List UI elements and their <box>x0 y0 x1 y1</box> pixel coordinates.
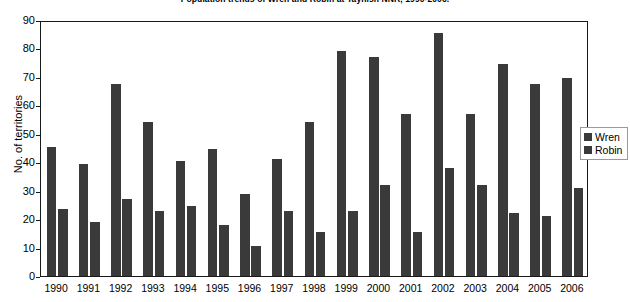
x-axis-tick-label: 1991 <box>72 283 104 294</box>
y-axis-tick-label: 80 <box>3 43 35 54</box>
bar-group <box>41 22 73 276</box>
bar-group <box>73 22 105 276</box>
y-axis-tick-label: 30 <box>3 186 35 197</box>
x-axis-tick-label: 1994 <box>169 283 201 294</box>
bar-group <box>202 22 234 276</box>
bar-group <box>492 22 524 276</box>
x-axis-tick-label: 1999 <box>330 283 362 294</box>
bar-group <box>170 22 202 276</box>
bar-robin <box>219 225 229 276</box>
bar-group <box>428 22 460 276</box>
bar-wren <box>143 122 153 276</box>
bar-robin <box>251 246 261 276</box>
bar-group <box>460 22 492 276</box>
bar-chart: Population trends of Wren and Robin at T… <box>0 0 630 302</box>
bar-wren <box>369 57 379 276</box>
legend-swatch-icon <box>584 133 592 141</box>
bar-robin <box>542 216 552 276</box>
bar-robin <box>413 232 423 276</box>
bar-robin <box>574 188 584 276</box>
bars-layer <box>41 22 587 276</box>
y-axis-tick-label: 90 <box>3 15 35 26</box>
bar-wren <box>111 84 121 276</box>
bar-wren <box>176 161 186 276</box>
chart-title: Population trends of Wren and Robin at T… <box>0 0 630 4</box>
bar-wren <box>47 147 57 276</box>
y-axis-tick-label: 60 <box>3 100 35 111</box>
bar-wren <box>272 159 282 276</box>
bar-robin <box>316 232 326 276</box>
bar-wren <box>240 194 250 276</box>
y-axis-tick-label: 10 <box>3 243 35 254</box>
bar-wren <box>466 114 476 276</box>
bar-group <box>105 22 137 276</box>
legend-label: Robin <box>595 144 622 156</box>
bar-group <box>138 22 170 276</box>
x-axis-tick-label: 1990 <box>40 283 72 294</box>
bar-group <box>234 22 266 276</box>
y-axis-tick-label: 0 <box>3 271 35 282</box>
bar-robin <box>90 222 100 276</box>
x-axis-tick-label: 1997 <box>266 283 298 294</box>
bar-group <box>331 22 363 276</box>
x-axis-tick-label: 2000 <box>362 283 394 294</box>
legend: Wren Robin <box>580 127 628 160</box>
bar-robin <box>155 211 165 276</box>
legend-item-robin: Robin <box>584 143 625 156</box>
y-axis-tick-label: 50 <box>3 129 35 140</box>
x-axis-tick-label: 2004 <box>491 283 523 294</box>
x-axis-tick-label: 2001 <box>395 283 427 294</box>
bar-wren <box>208 149 218 276</box>
bar-wren <box>498 64 508 276</box>
y-axis-tick-label: 20 <box>3 214 35 225</box>
bar-robin <box>445 168 455 276</box>
bar-group <box>363 22 395 276</box>
bar-wren <box>305 122 315 276</box>
bar-group <box>525 22 557 276</box>
x-axis-tick-label: 1995 <box>201 283 233 294</box>
legend-item-wren: Wren <box>584 130 625 143</box>
x-axis-tick-label: 2002 <box>427 283 459 294</box>
x-axis-tick-label: 1992 <box>104 283 136 294</box>
bar-robin <box>284 211 294 276</box>
plot-area <box>40 21 588 277</box>
bar-robin <box>380 185 390 276</box>
bar-wren <box>79 164 89 276</box>
bar-wren <box>337 51 347 276</box>
legend-swatch-icon <box>584 146 592 154</box>
bar-wren <box>562 78 572 276</box>
bar-wren <box>401 114 411 276</box>
x-axis-tick-label: 1993 <box>137 283 169 294</box>
bar-robin <box>348 211 358 276</box>
x-axis-tick-label: 2005 <box>524 283 556 294</box>
bar-group <box>267 22 299 276</box>
x-axis-tick-label: 1996 <box>233 283 265 294</box>
y-axis-tick-mark <box>36 277 40 278</box>
bar-robin <box>122 199 132 276</box>
bar-group <box>396 22 428 276</box>
bar-robin <box>58 209 68 276</box>
x-axis-tick-label: 2006 <box>556 283 588 294</box>
legend-label: Wren <box>595 131 620 143</box>
bar-wren <box>530 84 540 276</box>
x-axis-tick-label: 1998 <box>298 283 330 294</box>
x-axis-tick-label: 2003 <box>459 283 491 294</box>
bar-wren <box>434 33 444 276</box>
bar-robin <box>509 213 519 276</box>
bar-robin <box>477 185 487 276</box>
bar-robin <box>187 206 197 276</box>
y-axis-tick-label: 40 <box>3 157 35 168</box>
y-axis-tick-label: 70 <box>3 72 35 83</box>
bar-group <box>299 22 331 276</box>
